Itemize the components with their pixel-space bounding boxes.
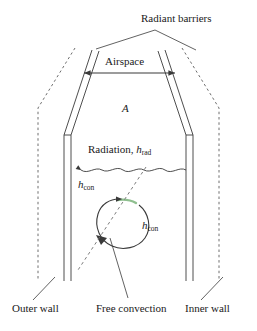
radiation-coefficient-subscript: rad <box>142 148 152 157</box>
inner-wall-leader-line <box>201 277 223 300</box>
hcon-right-symbol: h <box>142 219 148 231</box>
airspace-label: Airspace <box>105 56 144 67</box>
radiant-barrier-diagram: Radiant barriers Airspace A Radiation, h… <box>0 0 257 331</box>
radiation-wavy-arrow <box>81 168 186 171</box>
hcon-right-label: hcon <box>142 220 158 231</box>
radiant-barriers-leader-lines <box>96 30 196 50</box>
radiation-coefficient-symbol: h <box>136 143 142 155</box>
diagram-canvas <box>0 0 257 331</box>
free-convection-circular-arrow <box>96 199 149 248</box>
hcon-left-symbol: h <box>78 178 84 190</box>
free-convection-label: Free convection <box>96 303 167 314</box>
radiant-barriers-label: Radiant barriers <box>141 13 212 24</box>
outer-wall-label: Outer wall <box>12 303 59 314</box>
hcon-left-subscript: con <box>84 183 95 192</box>
outer-wall-leader-line <box>33 277 55 300</box>
outer-wall-dashed-line <box>38 48 75 281</box>
inner-wall-label: Inner wall <box>185 303 230 314</box>
inner-wall-dashed-line <box>182 48 219 281</box>
radiation-label: Radiation, hrad <box>88 144 151 155</box>
radiation-label-text: Radiation, <box>88 143 136 155</box>
left-radiant-barrier <box>64 50 99 281</box>
area-label: A <box>122 103 129 114</box>
hcon-right-subscript: con <box>148 224 159 233</box>
free-convection-leader-line <box>110 238 128 298</box>
right-radiant-barrier <box>158 50 193 281</box>
hcon-left-label: hcon <box>78 179 94 190</box>
